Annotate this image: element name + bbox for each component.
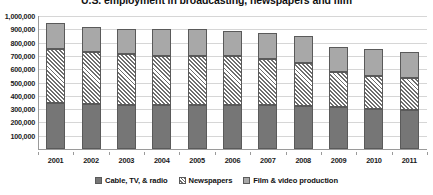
x-axis-tick bbox=[427, 152, 428, 155]
x-axis-tick-label: 2010 bbox=[358, 156, 390, 165]
bar-group[interactable] bbox=[152, 16, 171, 149]
bar-segment[interactable] bbox=[223, 31, 242, 56]
plot-area bbox=[38, 16, 427, 149]
bar-segment[interactable] bbox=[294, 36, 313, 63]
x-axis-tick bbox=[356, 152, 357, 155]
bar-segment[interactable] bbox=[329, 72, 348, 107]
x-axis-tick-label: 2007 bbox=[252, 156, 284, 165]
bar-segment[interactable] bbox=[364, 109, 383, 149]
legend-label: Cable, TV, & radio bbox=[105, 176, 167, 185]
x-axis-tick bbox=[109, 152, 110, 155]
bar-segment[interactable] bbox=[223, 56, 242, 105]
bar-group[interactable] bbox=[294, 16, 313, 149]
bar-segment[interactable] bbox=[400, 110, 419, 149]
legend-label: Film & video production bbox=[253, 176, 338, 185]
x-axis-tick-label: 2009 bbox=[323, 156, 355, 165]
bar-segment[interactable] bbox=[152, 56, 171, 105]
y-axis-tick-label: 700,000 bbox=[10, 52, 35, 61]
y-axis-tick-label: 1,000,000 bbox=[5, 12, 35, 21]
bar-group[interactable] bbox=[258, 16, 277, 149]
chart-title: U.S. employment in broadcasting, newspap… bbox=[0, 0, 433, 6]
legend-item[interactable]: Newspapers bbox=[179, 176, 233, 185]
bar-group[interactable] bbox=[46, 16, 65, 149]
bar-segment[interactable] bbox=[329, 107, 348, 149]
bar-segment[interactable] bbox=[223, 105, 242, 149]
bar-segment[interactable] bbox=[46, 49, 65, 103]
x-axis-tick bbox=[286, 152, 287, 155]
y-axis-tick-label: 900,000 bbox=[10, 25, 35, 34]
bar-segment[interactable] bbox=[364, 76, 383, 109]
y-axis-tick-label: 400,000 bbox=[10, 92, 35, 101]
x-axis-tick-label: 2008 bbox=[287, 156, 319, 165]
x-axis-tick-label: 2001 bbox=[40, 156, 72, 165]
x-axis-tick bbox=[215, 152, 216, 155]
bar-group[interactable] bbox=[188, 16, 207, 149]
x-axis-tick bbox=[144, 152, 145, 155]
bar-segment[interactable] bbox=[294, 63, 313, 106]
bar-segment[interactable] bbox=[400, 78, 419, 110]
bar-segment[interactable] bbox=[82, 52, 101, 104]
bar-group[interactable] bbox=[223, 16, 242, 149]
x-axis-tick-label: 2002 bbox=[75, 156, 107, 165]
legend-item[interactable]: Cable, TV, & radio bbox=[95, 176, 167, 185]
y-axis-tick-label: 200,000 bbox=[10, 118, 35, 127]
chart-container: U.S. employment in broadcasting, newspap… bbox=[0, 0, 433, 195]
bar-segment[interactable] bbox=[364, 49, 383, 76]
y-axis-tick-label: 500,000 bbox=[10, 79, 35, 88]
x-axis-tick bbox=[179, 152, 180, 155]
bar-segment[interactable] bbox=[329, 47, 348, 72]
bar-segment[interactable] bbox=[152, 105, 171, 149]
bar-segment[interactable] bbox=[258, 33, 277, 59]
legend-label: Newspapers bbox=[189, 176, 233, 185]
bar-group[interactable] bbox=[400, 16, 419, 149]
bar-group[interactable] bbox=[364, 16, 383, 149]
x-axis-line bbox=[38, 149, 427, 150]
bar-segment[interactable] bbox=[46, 23, 65, 49]
bar-segment[interactable] bbox=[152, 29, 171, 56]
y-axis-tick-label: 100,000 bbox=[10, 132, 35, 141]
bar-segment[interactable] bbox=[294, 106, 313, 149]
bar-group[interactable] bbox=[117, 16, 136, 149]
bar-segment[interactable] bbox=[188, 105, 207, 149]
legend-swatch-cable-icon bbox=[95, 177, 102, 184]
bar-segment[interactable] bbox=[258, 105, 277, 149]
bar-group[interactable] bbox=[329, 16, 348, 149]
x-axis-tick bbox=[392, 152, 393, 155]
legend-swatch-film-icon bbox=[243, 177, 250, 184]
x-axis-tick bbox=[250, 152, 251, 155]
bar-segment[interactable] bbox=[117, 29, 136, 54]
bar-segment[interactable] bbox=[82, 27, 101, 53]
y-axis-tick-label: 800,000 bbox=[10, 39, 35, 48]
bar-segment[interactable] bbox=[188, 56, 207, 105]
y-axis-line bbox=[38, 16, 39, 150]
bar-group[interactable] bbox=[82, 16, 101, 149]
bar-segment[interactable] bbox=[46, 103, 65, 149]
x-axis-tick-label: 2005 bbox=[181, 156, 213, 165]
y-axis-labels: 100,000200,000300,000400,000500,000600,0… bbox=[0, 0, 35, 195]
x-axis-tick bbox=[73, 152, 74, 155]
bar-segment[interactable] bbox=[117, 105, 136, 149]
legend-item[interactable]: Film & video production bbox=[243, 176, 338, 185]
legend-swatch-news-icon bbox=[179, 177, 186, 184]
bar-segment[interactable] bbox=[400, 52, 419, 78]
x-axis-tick-label: 2004 bbox=[146, 156, 178, 165]
y-axis-tick-label: 300,000 bbox=[10, 105, 35, 114]
y-axis-tick-label: 600,000 bbox=[10, 65, 35, 74]
x-axis-labels: 2001200220032004200520062007200820092010… bbox=[38, 152, 427, 168]
chart-legend: Cable, TV, & radioNewspapersFilm & video… bbox=[0, 176, 433, 185]
x-axis-tick-label: 2006 bbox=[217, 156, 249, 165]
x-axis-tick-label: 2003 bbox=[110, 156, 142, 165]
x-axis-tick-label: 2011 bbox=[393, 156, 425, 165]
bar-segment[interactable] bbox=[188, 29, 207, 56]
bar-segment[interactable] bbox=[258, 59, 277, 105]
x-axis-tick bbox=[321, 152, 322, 155]
bar-segment[interactable] bbox=[82, 104, 101, 149]
bar-segment[interactable] bbox=[117, 54, 136, 105]
x-axis-tick bbox=[38, 152, 39, 155]
